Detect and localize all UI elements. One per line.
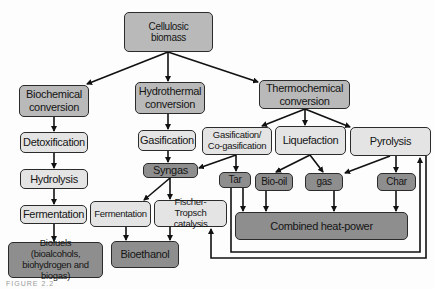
gasification-node: Gasification <box>138 130 196 151</box>
char-node: Char <box>377 173 416 191</box>
biofuels-node: Biofuels (bioalcohols, biohydrogen and b… <box>8 242 103 278</box>
flow-diagram: Cellulosic biomass Biochemical conversio… <box>0 0 435 289</box>
pyrolysis-node: Pyrolysis <box>350 127 431 156</box>
figure-caption: FIGURE 2.2 <box>6 280 54 287</box>
syngas-node: Syngas <box>143 163 198 178</box>
cellulosic-biomass-node: Cellulosic biomass <box>124 12 213 52</box>
fischer-tropsch-node: Fischer-Tropsch catalysis <box>154 200 227 227</box>
tar-node: Tar <box>219 172 251 188</box>
bio-oil-node: Bio-oil <box>255 173 293 191</box>
fermentation-node-biochemical: Fermentation <box>20 205 87 224</box>
gasification-co-gasification-node: Gasification/ Co-gasification <box>202 127 272 155</box>
fermentation-node-syngas: Fermentation <box>90 201 151 227</box>
liquefaction-node: Liquefaction <box>275 126 346 155</box>
thermochemical-conversion-node: Thermochemical conversion <box>259 80 350 109</box>
biochemical-conversion-node: Biochemical conversion <box>19 85 89 117</box>
combined-heat-power-node: Combined heat-power <box>235 212 408 240</box>
gas-node: gas <box>305 173 343 191</box>
bioethanol-node: Bioethanol <box>111 241 179 268</box>
hydrolysis-node: Hydrolysis <box>20 169 88 189</box>
hydrothermal-conversion-node: Hydrothermal conversion <box>135 82 205 114</box>
detoxification-node: Detoxification <box>20 132 88 153</box>
